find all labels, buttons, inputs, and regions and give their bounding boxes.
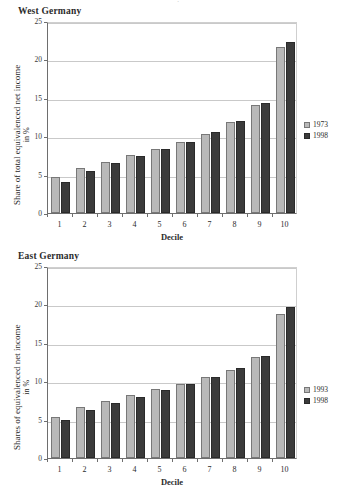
x-axis-tick-mark [272, 459, 273, 462]
legend-swatch-icon-1998 [304, 133, 310, 139]
y-axis-tick-label: 10 [20, 377, 42, 386]
bar-east-germany-1993-decile-4 [126, 395, 136, 458]
x-axis-tick-mark [72, 214, 73, 217]
bar-west-germany-1998-decile-8 [236, 121, 246, 213]
bar-west-germany-1973-decile-4 [126, 155, 136, 213]
bar-east-germany-1998-decile-1 [61, 420, 71, 458]
plot-area-east-germany [47, 267, 297, 459]
bar-east-germany-1993-decile-10 [276, 314, 286, 458]
x-axis-tick-mark [222, 459, 223, 462]
x-axis-tick-mark [222, 214, 223, 217]
bar-west-germany-1998-decile-1 [61, 182, 71, 213]
gridline [48, 345, 296, 346]
x-axis-tick-label-10: 10 [270, 465, 300, 474]
bar-east-germany-1998-decile-7 [211, 377, 221, 458]
x-axis-tick-mark [247, 214, 248, 217]
bar-east-germany-1998-decile-9 [261, 356, 271, 458]
gridline [48, 306, 296, 307]
bar-west-germany-1973-decile-7 [201, 134, 211, 213]
legend-label-1973: 1973 [313, 120, 328, 129]
bar-east-germany-1998-decile-8 [236, 368, 246, 458]
bar-west-germany-1973-decile-2 [76, 168, 86, 213]
legend-label-1998: 1998 [313, 131, 328, 140]
bar-east-germany-1993-decile-2 [76, 407, 86, 458]
gridline [48, 100, 296, 101]
bar-east-germany-1993-decile-8 [226, 370, 236, 458]
gridline [48, 23, 296, 24]
x-axis-tick-mark [247, 459, 248, 462]
x-axis-tick-mark [172, 459, 173, 462]
legend-swatch-icon-1998 [304, 398, 310, 404]
bar-east-germany-1998-decile-4 [136, 397, 146, 458]
bar-east-germany-1993-decile-6 [176, 384, 186, 458]
x-axis-tick-mark [72, 459, 73, 462]
panel-title-east-germany: East Germany [18, 251, 79, 261]
y-axis-tick-label: 25 [20, 262, 42, 271]
y-axis-tick-mark [44, 60, 47, 61]
x-axis-tick-mark [272, 214, 273, 217]
y-axis-tick-label: 5 [20, 416, 42, 425]
y-axis-tick-mark [44, 382, 47, 383]
y-axis-tick-mark [44, 421, 47, 422]
bar-west-germany-1998-decile-5 [161, 149, 171, 213]
legend-swatch-icon-1993 [304, 387, 310, 393]
gridline [48, 61, 296, 62]
bar-east-germany-1993-decile-3 [101, 401, 111, 458]
bar-east-germany-1998-decile-6 [186, 384, 196, 458]
y-axis-tick-label: 25 [20, 17, 42, 26]
y-axis-tick-mark [44, 137, 47, 138]
bar-east-germany-1998-decile-2 [86, 410, 96, 458]
bar-east-germany-1998-decile-5 [161, 390, 171, 458]
y-axis-tick-label: 15 [20, 339, 42, 348]
y-axis-tick-mark [44, 305, 47, 306]
bar-east-germany-1998-decile-3 [111, 403, 121, 458]
bar-west-germany-1998-decile-3 [111, 163, 121, 213]
x-axis-tick-mark [147, 214, 148, 217]
x-axis-tick-mark [122, 459, 123, 462]
bar-west-germany-1973-decile-3 [101, 162, 111, 213]
bar-west-germany-1973-decile-5 [151, 149, 161, 214]
bar-west-germany-1998-decile-7 [211, 132, 221, 213]
legend-swatch-icon-1973 [304, 122, 310, 128]
legend-label-1998: 1998 [313, 396, 328, 405]
x-axis-tick-mark [122, 214, 123, 217]
x-axis-tick-mark [197, 459, 198, 462]
x-axis-tick-mark [47, 214, 48, 217]
x-axis-label-east-germany: Decile [47, 477, 297, 487]
y-axis-tick-mark [44, 267, 47, 268]
x-axis-tick-mark [47, 459, 48, 462]
bar-east-germany-1993-decile-1 [51, 417, 61, 458]
bar-west-germany-1998-decile-4 [136, 156, 146, 213]
x-axis-tick-mark [147, 459, 148, 462]
y-axis-tick-mark [44, 176, 47, 177]
y-axis-tick-label: 0 [20, 209, 42, 218]
y-axis-tick-mark [44, 99, 47, 100]
x-axis-tick-label-10: 10 [270, 220, 300, 229]
y-axis-tick-label: 0 [20, 454, 42, 463]
y-axis-tick-label: 5 [20, 171, 42, 180]
chart-east-germany: East GermanyShares of equivalenced net i… [0, 248, 356, 496]
panel-title-west-germany: West Germany [18, 6, 81, 16]
x-axis-label-west-germany: Decile [47, 232, 297, 242]
y-axis-tick-label: 20 [20, 55, 42, 64]
gridline [48, 268, 296, 269]
bar-west-germany-1998-decile-2 [86, 171, 96, 213]
plot-area-west-germany [47, 22, 297, 214]
x-axis-tick-mark [197, 214, 198, 217]
bar-west-germany-1973-decile-10 [276, 47, 286, 213]
bar-east-germany-1993-decile-9 [251, 357, 261, 458]
y-axis-tick-label: 10 [20, 132, 42, 141]
y-axis-tick-label: 15 [20, 94, 42, 103]
bar-west-germany-1998-decile-6 [186, 142, 196, 213]
y-axis-tick-label: 20 [20, 300, 42, 309]
bar-west-germany-1998-decile-10 [286, 42, 296, 213]
x-axis-tick-mark [172, 214, 173, 217]
bar-east-germany-1993-decile-5 [151, 389, 161, 458]
bar-west-germany-1973-decile-8 [226, 122, 236, 213]
bar-west-germany-1973-decile-1 [51, 177, 61, 213]
x-axis-tick-mark [97, 459, 98, 462]
bar-west-germany-1973-decile-9 [251, 105, 261, 213]
bar-east-germany-1998-decile-10 [286, 307, 296, 458]
chart-west-germany: West GermanyShare of total equivalenced … [0, 0, 356, 248]
bar-west-germany-1998-decile-9 [261, 103, 271, 213]
